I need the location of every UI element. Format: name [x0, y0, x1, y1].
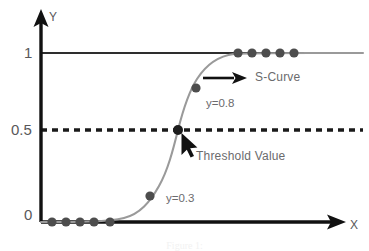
s-curve-path [41, 53, 363, 222]
data-point [247, 48, 256, 57]
data-point [233, 48, 242, 57]
data-point [89, 217, 98, 226]
threshold-annotation-label: Threshold Value [196, 150, 286, 162]
data-point [75, 217, 84, 226]
plot-canvas [0, 0, 369, 251]
y-high-value-label: y=0.8 [206, 98, 234, 110]
data-point [47, 217, 56, 226]
threshold-pointer-icon [182, 133, 198, 158]
data-point [105, 217, 114, 226]
data-point [275, 48, 284, 57]
s-curve-figure: 1 0.5 0 Y X S-Curve Threshold Value y=0.… [0, 0, 369, 251]
y-low-value-label: y=0.3 [166, 193, 194, 205]
y-tick-label-0: 0 [24, 207, 32, 222]
data-point-y-low [145, 191, 154, 200]
data-point [261, 48, 270, 57]
y-tick-label-0point5: 0.5 [11, 122, 32, 137]
data-point [289, 48, 298, 57]
figure-caption: Figure 1: [0, 240, 369, 251]
s-curve-annotation-label: S-Curve [255, 71, 300, 83]
y-axis-label: Y [49, 11, 57, 23]
data-point [61, 217, 70, 226]
y-tick-label-1: 1 [24, 45, 32, 60]
data-point-y-high [191, 83, 200, 92]
s-curve-callout-arrowhead-icon [232, 72, 247, 84]
x-axis-label: X [350, 219, 358, 231]
